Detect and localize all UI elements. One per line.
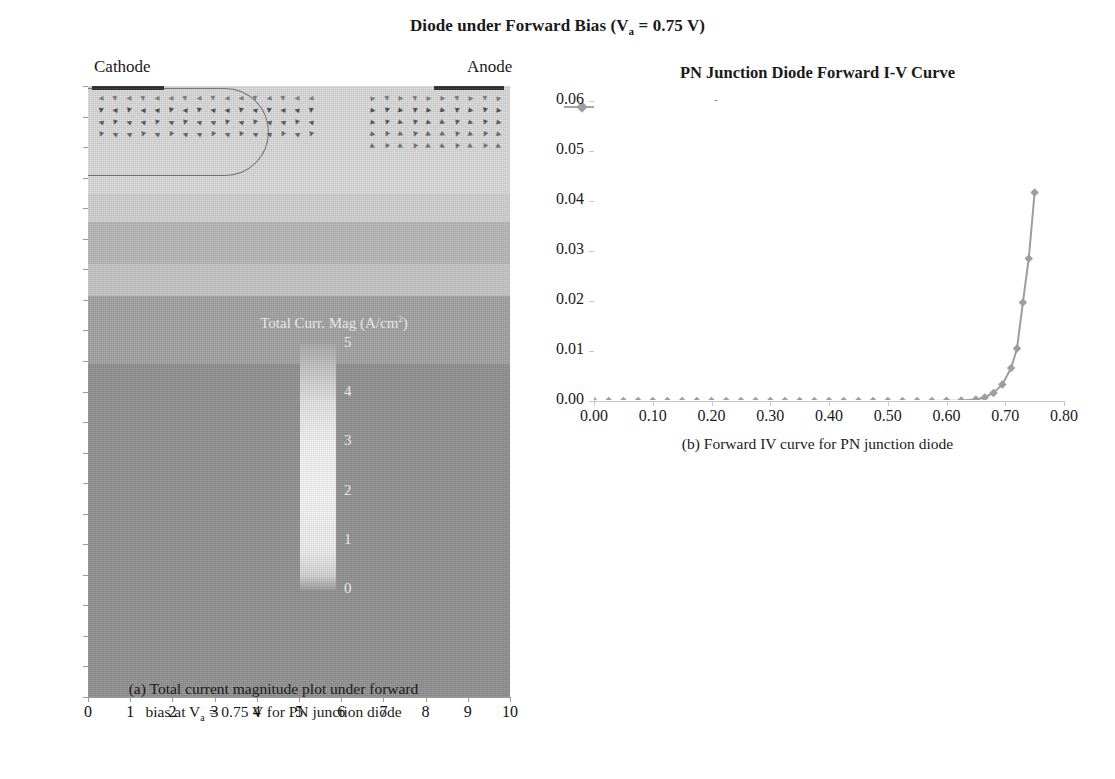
- iv-curve-marker: [707, 397, 715, 400]
- iv-curve-marker: [898, 397, 906, 400]
- colorbar-tick-label: 4: [344, 383, 352, 400]
- chart-y-tick-label: 0.05: [520, 140, 584, 158]
- band-region-3: [88, 222, 510, 264]
- panel-a: Cathode Anode ◂▾◂▾◂◂▾◂▾◂◂▾◂▾◂◂▾◂▾◂◂▾◂▾◂◂…: [0, 55, 545, 755]
- chart-title: PN Junction Diode Forward I-V Curve: [520, 63, 1115, 83]
- chart-x-tick-mark: [1064, 401, 1065, 406]
- figure-title-suffix: = 0.75 V): [634, 16, 705, 35]
- current-arrow-icon: ▾: [302, 126, 319, 142]
- y-tick-mark-a: [83, 422, 88, 423]
- chart-x-tick-label: 0.60: [920, 407, 974, 425]
- x-tick-label-a: 6: [326, 703, 356, 721]
- chart-y-tick-label: 0.03: [520, 240, 584, 258]
- x-tick-mark-a: [426, 697, 427, 702]
- iv-curve-marker: [766, 397, 774, 400]
- chart-x-tick-mark: [770, 401, 771, 406]
- iv-curve-marker: [722, 397, 730, 400]
- iv-curve-marker: [737, 397, 745, 400]
- chart-y-tick-label: 0.02: [520, 290, 584, 308]
- x-tick-label-a: 5: [284, 703, 314, 721]
- chart-y-tick-mark: [589, 251, 594, 252]
- y-tick-mark-a: [83, 544, 88, 545]
- iv-curve-marker: [604, 397, 612, 400]
- chart-y-tick-mark: [589, 151, 594, 152]
- iv-curve-marker: [928, 397, 936, 400]
- chart-y-tick-label: 0.04: [520, 190, 584, 208]
- y-tick-mark-a: [83, 86, 88, 87]
- y-tick-mark-a: [83, 636, 88, 637]
- chart-x-tick-mark: [594, 401, 595, 406]
- colorbar-title: Total Curr. Mag (A/cm2): [184, 314, 484, 332]
- chart-x-tick-label: 0.30: [743, 407, 797, 425]
- x-tick-mark-a: [510, 697, 511, 702]
- x-tick-label-a: 1: [115, 703, 145, 721]
- x-tick-mark-a: [130, 697, 131, 702]
- x-tick-mark-a: [88, 697, 89, 702]
- chart-y-tick-mark: [589, 351, 594, 352]
- iv-curve-marker: [869, 397, 877, 400]
- chart-x-tick-label: 0.20: [685, 407, 739, 425]
- current-vector-field-cathode: ◂▾◂▾◂◂▾◂▾◂◂▾◂▾◂◂▾◂▾◂◂▾◂▾◂◂▾◂▾◂◂▾◂▾◂◂▾◂▾◂…: [94, 92, 318, 140]
- caption-b: (b) Forward IV curve for PN junction dio…: [520, 435, 1115, 453]
- iv-curve-svg: [594, 101, 1064, 400]
- chart-x-tick-label: 0.10: [626, 407, 680, 425]
- x-tick-label-a: 4: [242, 703, 272, 721]
- x-tick-label-a: 10: [495, 703, 525, 721]
- chart-y-tick-label: 0.06: [520, 90, 584, 108]
- caption-a-line1: (a) Total current magnitude plot under f…: [129, 680, 419, 697]
- y-tick-mark-a: [83, 178, 88, 179]
- iv-curve-marker: [649, 397, 657, 400]
- iv-curve-marker: [663, 397, 671, 400]
- y-tick-mark-a: [83, 239, 88, 240]
- chart-x-tick-mark: [1005, 401, 1006, 406]
- y-tick-mark-a: [83, 605, 88, 606]
- iv-curve-marker: [678, 397, 686, 400]
- current-magnitude-map: ◂▾◂▾◂◂▾◂▾◂◂▾◂▾◂◂▾◂▾◂◂▾◂▾◂◂▾◂▾◂◂▾◂▾◂◂▾◂▾◂…: [88, 86, 510, 697]
- y-tick-mark-a: [83, 453, 88, 454]
- band-region-6: [88, 364, 510, 697]
- colorbar-tick-label: 1: [344, 531, 352, 548]
- chart-x-tick-mark: [712, 401, 713, 406]
- iv-curve-line: [594, 193, 1035, 401]
- chart-x-tick-label: 0.70: [978, 407, 1032, 425]
- chart-y-tick-mark: [589, 301, 594, 302]
- chart-x-tick-mark: [829, 401, 830, 406]
- y-tick-mark-a: [83, 208, 88, 209]
- iv-curve-marker: [825, 397, 833, 400]
- colorbar-title-main: Total Curr. Mag (A/cm: [260, 315, 398, 331]
- y-tick-mark-a: [83, 575, 88, 576]
- current-arrow-icon: ▸: [490, 138, 508, 155]
- iv-curve-marker: [795, 397, 803, 400]
- iv-curve-marker: [781, 397, 789, 400]
- iv-curve-marker: [693, 397, 701, 400]
- y-tick-mark-a: [83, 300, 88, 301]
- x-tick-label-a: 2: [157, 703, 187, 721]
- chart-x-tick-mark: [653, 401, 654, 406]
- y-tick-mark-a: [83, 392, 88, 393]
- band-region-4: [88, 264, 510, 296]
- x-tick-mark-a: [383, 697, 384, 702]
- colorbar-gradient: [300, 344, 336, 590]
- y-tick-mark-a: [83, 330, 88, 331]
- chart-plot-area: [594, 101, 1064, 400]
- iv-curve-marker: [839, 397, 847, 400]
- anode-electrode: [434, 86, 504, 90]
- figure-title-prefix: Diode under Forward Bias (V: [410, 16, 629, 35]
- x-tick-label-a: 7: [368, 703, 398, 721]
- iv-curve-marker: [913, 397, 921, 400]
- iv-curve-marker: [854, 397, 862, 400]
- iv-curve-marker: [1007, 364, 1015, 372]
- x-tick-label-a: 0: [73, 703, 103, 721]
- y-tick-mark-a: [83, 269, 88, 270]
- x-tick-mark-a: [257, 697, 258, 702]
- iv-curve-marker: [810, 397, 818, 400]
- panel-b: PN Junction Diode Forward I-V Curve PN j…: [520, 55, 1115, 495]
- chart-y-tick-label: 0.01: [520, 340, 584, 358]
- anode-label: Anode: [467, 57, 512, 77]
- x-tick-mark-a: [341, 697, 342, 702]
- x-tick-label-a: 3: [200, 703, 230, 721]
- chart-x-tick-mark: [947, 401, 948, 406]
- y-tick-mark-a: [83, 361, 88, 362]
- cathode-label: Cathode: [94, 57, 151, 77]
- iv-curve-marker: [972, 395, 980, 400]
